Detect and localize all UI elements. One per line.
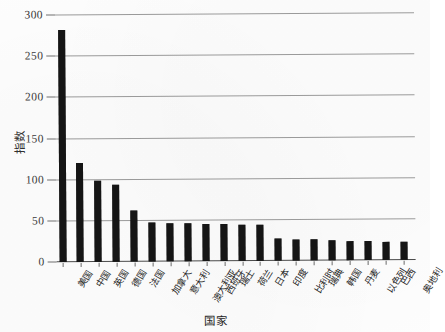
x-tick-mark <box>368 261 369 265</box>
x-tick-mark <box>134 263 135 267</box>
bar <box>202 224 209 261</box>
x-tick-mark <box>152 262 153 266</box>
x-tick-mark <box>332 261 333 265</box>
x-tick-mark <box>296 261 297 265</box>
x-axis-title: 国家 <box>1 311 431 330</box>
bar <box>220 224 227 261</box>
x-tick-mark <box>278 262 279 266</box>
bar <box>346 241 353 260</box>
bar <box>149 223 156 262</box>
bar <box>364 241 371 260</box>
bar <box>112 185 120 262</box>
bar <box>274 238 281 260</box>
x-tick-mark <box>206 262 207 266</box>
bar <box>238 225 245 261</box>
x-tick-mark <box>81 263 82 267</box>
bar <box>131 210 138 261</box>
bar <box>382 242 389 260</box>
x-tick-mark <box>63 263 64 267</box>
x-tick-mark <box>170 262 171 266</box>
bar <box>310 240 317 261</box>
bar <box>400 242 407 260</box>
bar <box>292 239 299 260</box>
bar <box>76 163 84 262</box>
x-tick-mark <box>242 262 243 266</box>
x-tick-mark <box>188 262 189 266</box>
x-tick-mark <box>350 261 351 265</box>
x-tick-mark <box>260 262 261 266</box>
bar <box>94 181 102 262</box>
bar <box>185 223 192 261</box>
bar <box>328 240 335 260</box>
x-tick-mark <box>116 263 117 267</box>
x-tick-mark <box>314 261 315 265</box>
x-tick-mark <box>404 261 405 265</box>
x-tick-mark <box>99 263 100 267</box>
x-tick-mark <box>224 262 225 266</box>
x-tick-mark <box>386 261 387 265</box>
plot-area: 300250200150100500 指数 美国中国英国德国法国加拿大意大利澳大… <box>0 0 431 332</box>
bar <box>167 223 174 261</box>
bar <box>58 30 67 262</box>
bar <box>256 224 263 260</box>
